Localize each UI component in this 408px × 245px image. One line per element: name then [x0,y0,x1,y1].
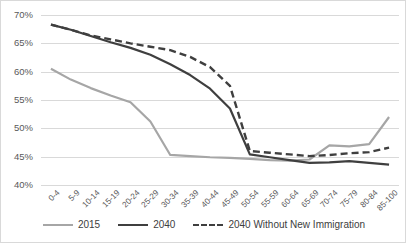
chart-container: 70%65%60%55%50%45%40% 0-45-910-1415-1920… [0,0,406,243]
y-axis-tick-label: 55% [0,95,33,105]
y-axis-tick-label: 65% [0,39,33,49]
legend-label: 2040 Without New Immigration [228,219,365,230]
series-lines [41,15,399,185]
y-axis-tick-label: 60% [0,67,33,77]
legend-item[interactable]: 2015 [43,219,100,230]
series-line [51,69,389,161]
chart-legend: 201520402040 Without New Immigration [1,219,407,230]
y-axis-tick-label: 70% [0,10,33,20]
legend-swatch-icon [193,224,223,226]
y-axis-tick-label: 50% [0,124,33,134]
y-axis-tick-label: 45% [0,152,33,162]
legend-swatch-icon [118,224,148,226]
legend-item[interactable]: 2040 [118,219,175,230]
series-line [51,25,389,165]
gridline [41,185,399,186]
legend-label: 2015 [78,219,100,230]
y-axis-tick-label: 40% [0,180,33,190]
legend-swatch-icon [43,224,73,226]
legend-item[interactable]: 2040 Without New Immigration [193,219,365,230]
series-line [51,25,389,156]
legend-label: 2040 [153,219,175,230]
plot-area [41,15,399,185]
